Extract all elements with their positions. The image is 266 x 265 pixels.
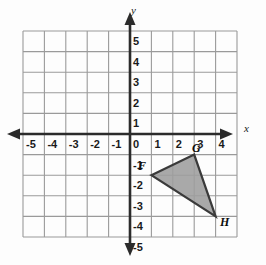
x-tick-label: 4 [219, 138, 226, 150]
y-tick-label: -2 [133, 179, 143, 191]
y-tick-label: -5 [133, 241, 143, 253]
vertex-label-f: F [137, 159, 146, 173]
x-tick-label: -5 [26, 138, 36, 150]
x-tick-label: -2 [90, 138, 100, 150]
x-tick-label: -4 [47, 138, 58, 150]
y-tick-label: -4 [133, 220, 144, 232]
y-tick-label: 1 [133, 117, 139, 129]
x-axis-label: x [243, 122, 249, 134]
triangle-fgh-shape [151, 155, 215, 217]
x-tick-label: 2 [176, 138, 182, 150]
x-tick-label: 0 [133, 138, 139, 150]
y-tick-label: 5 [133, 35, 139, 47]
x-tick-label: -3 [69, 138, 79, 150]
vertex-label-g: G [192, 141, 201, 155]
y-tick-label: 4 [133, 56, 140, 68]
y-tick-label: 2 [133, 97, 139, 109]
vertex-label-h: H [219, 215, 230, 229]
x-tick-label: 1 [154, 138, 160, 150]
coordinate-plane-svg: x y -5 -4 -3 -2 -1 0 1 2 3 4 5 4 3 2 1 -… [0, 0, 266, 265]
x-tick-label: -1 [112, 138, 122, 150]
coordinate-plane-figure: x y -5 -4 -3 -2 -1 0 1 2 3 4 5 4 3 2 1 -… [0, 0, 266, 265]
y-axis-label: y [130, 4, 136, 16]
y-tick-label: -3 [133, 200, 143, 212]
x-axis-arrow-left [7, 129, 20, 140]
y-tick-label: 3 [133, 76, 139, 88]
